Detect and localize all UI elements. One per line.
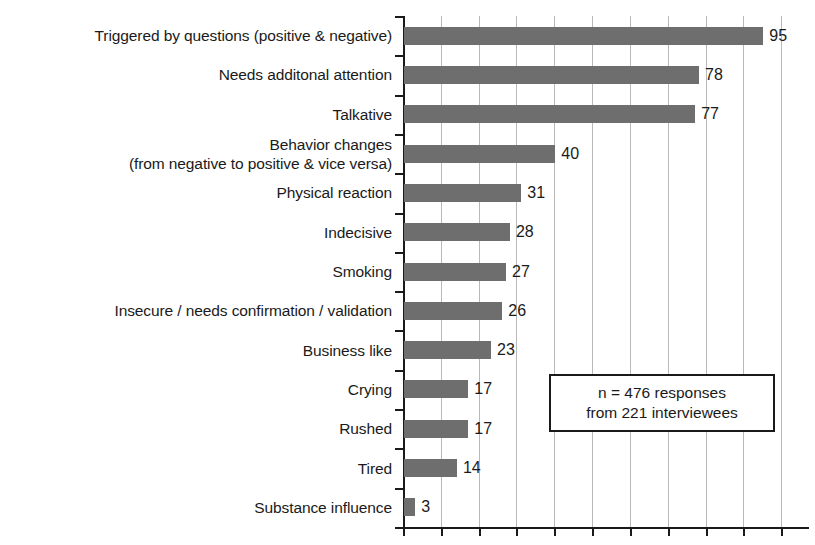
bar-value-label: 95 <box>769 27 787 45</box>
y-axis-tick <box>395 370 403 372</box>
bar <box>404 66 699 84</box>
bar <box>404 302 502 320</box>
x-axis-tick <box>668 527 670 536</box>
category-label-row: Business like <box>0 330 392 369</box>
bar <box>404 184 521 202</box>
gridline <box>554 16 555 527</box>
category-label-row: Physical reaction <box>0 173 392 212</box>
category-label-column: Triggered by questions (positive & negat… <box>0 16 396 527</box>
bar-value-label: 40 <box>561 145 579 163</box>
gridline <box>668 16 669 527</box>
bar <box>404 27 763 45</box>
category-label: Substance influence <box>254 498 392 517</box>
bar <box>404 105 695 123</box>
plot-area: 9578774031282726231717143 n = 476 respon… <box>403 16 809 527</box>
bar-value-label: 26 <box>508 302 526 320</box>
category-label: Business like <box>303 341 392 360</box>
category-label-row: Triggered by questions (positive & negat… <box>0 16 392 55</box>
category-label-row: Substance influence <box>0 488 392 527</box>
x-axis-tick <box>592 527 594 536</box>
bar <box>404 145 555 163</box>
category-label-row: Tired <box>0 448 392 487</box>
category-label: Behavior changes (from negative to posit… <box>129 135 392 173</box>
sample-size-annotation-box: n = 476 responses from 221 interviewees <box>549 374 775 432</box>
bar-value-label: 27 <box>512 263 530 281</box>
category-label-row: Insecure / needs confirmation / validati… <box>0 291 392 330</box>
x-axis-tick <box>554 527 556 536</box>
category-label-row: Behavior changes (from negative to posit… <box>0 134 392 173</box>
x-axis-tick <box>781 527 783 536</box>
x-axis-line <box>403 527 809 529</box>
category-label: Tired <box>358 459 392 478</box>
gridline <box>592 16 593 527</box>
category-label: Needs additonal attention <box>219 65 392 84</box>
annotation-line-1: n = 476 responses <box>598 383 726 403</box>
category-label: Rushed <box>339 419 392 438</box>
y-axis-tick <box>395 330 403 332</box>
bar <box>404 263 506 281</box>
category-label: Triggered by questions (positive & negat… <box>95 26 392 45</box>
y-axis-tick <box>395 213 403 215</box>
bar-value-label: 31 <box>527 184 545 202</box>
category-label-row: Rushed <box>0 409 392 448</box>
y-axis-tick <box>395 16 403 18</box>
category-label: Crying <box>348 380 392 399</box>
horizontal-bar-chart: Triggered by questions (positive & negat… <box>0 0 815 545</box>
bar-value-label: 3 <box>421 498 430 516</box>
category-label: Physical reaction <box>277 183 392 202</box>
category-label-row: Needs additonal attention <box>0 55 392 94</box>
bar-value-label: 23 <box>497 341 515 359</box>
gridline <box>630 16 631 527</box>
bar-value-label: 78 <box>705 66 723 84</box>
bar <box>404 420 468 438</box>
gridline <box>781 16 782 527</box>
x-axis-tick <box>630 527 632 536</box>
category-label-row: Indecisive <box>0 213 392 252</box>
bar-value-label: 17 <box>474 420 492 438</box>
y-axis-tick <box>395 173 403 175</box>
x-axis-tick <box>743 527 745 536</box>
bar-value-label: 28 <box>516 223 534 241</box>
bar-value-label: 17 <box>474 380 492 398</box>
bar <box>404 498 415 516</box>
bar-value-label: 14 <box>463 459 481 477</box>
category-label: Smoking <box>332 262 392 281</box>
annotation-line-2: from 221 interviewees <box>586 403 738 423</box>
bar <box>404 341 491 359</box>
y-axis-tick <box>395 488 403 490</box>
x-axis-tick <box>403 527 405 536</box>
y-axis-tick <box>395 134 403 136</box>
category-label: Insecure / needs confirmation / validati… <box>114 301 392 320</box>
category-label: Talkative <box>333 105 392 124</box>
x-axis-tick <box>479 527 481 536</box>
bar-value-label: 77 <box>701 105 719 123</box>
bar <box>404 223 510 241</box>
bar <box>404 459 457 477</box>
y-axis-tick <box>395 55 403 57</box>
category-label-row: Smoking <box>0 252 392 291</box>
x-axis-tick <box>516 527 518 536</box>
y-axis-tick <box>395 527 403 529</box>
gridline <box>743 16 744 527</box>
y-axis-tick <box>395 409 403 411</box>
y-axis-tick <box>395 291 403 293</box>
x-axis-tick <box>706 527 708 536</box>
category-label: Indecisive <box>324 223 392 242</box>
x-axis-tick <box>441 527 443 536</box>
y-axis-tick <box>395 95 403 97</box>
bar <box>404 380 468 398</box>
category-label-row: Crying <box>0 370 392 409</box>
category-label-row: Talkative <box>0 95 392 134</box>
gridline <box>706 16 707 527</box>
y-axis-tick <box>395 252 403 254</box>
y-axis-tick <box>395 448 403 450</box>
